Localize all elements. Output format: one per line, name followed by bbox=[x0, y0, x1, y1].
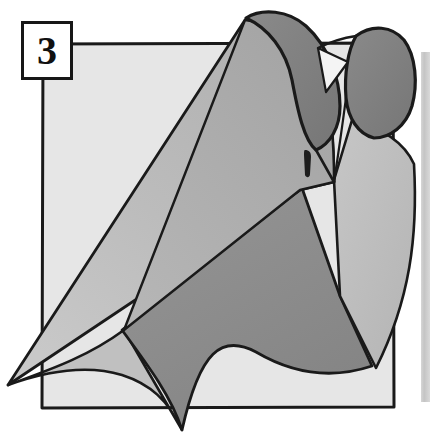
step-number-box: 3 bbox=[21, 21, 73, 80]
roll-opening-right bbox=[345, 28, 415, 138]
figure-root: 3 bbox=[0, 0, 430, 444]
page-edge-band bbox=[421, 52, 430, 402]
step-number-label: 3 bbox=[37, 31, 57, 71]
fold-slit-mark bbox=[304, 150, 311, 177]
